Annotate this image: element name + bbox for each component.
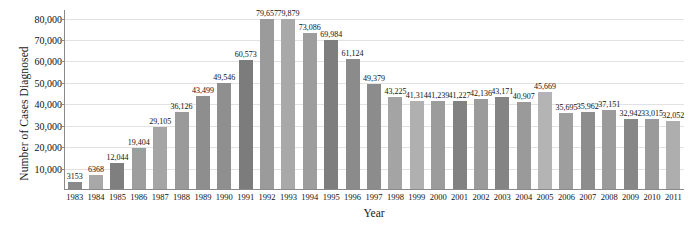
x-axis-title: Year [64, 207, 684, 219]
bar-group[interactable]: 61,124 [342, 10, 363, 189]
bar[interactable] [495, 97, 509, 189]
bar-chart: Number of Cases Diagnosed 10,00020,00030… [0, 0, 691, 227]
x-tick-label: 1985 [109, 192, 126, 202]
bar-value-label: 37,151 [598, 100, 620, 109]
bar-group[interactable]: 12,044 [107, 10, 128, 189]
bar[interactable] [260, 19, 274, 189]
bar-group[interactable]: 32,942 [620, 10, 641, 189]
bar-value-label: 61,124 [342, 49, 364, 58]
x-tick-label: 2010 [643, 192, 660, 202]
bar-group[interactable]: 49,379 [363, 10, 384, 189]
y-tick-label: 50,000 [20, 77, 62, 88]
bar-value-label: 36,126 [171, 102, 193, 111]
bar-group[interactable]: 3153 [64, 10, 85, 189]
bar[interactable] [624, 119, 638, 189]
bar-value-label: 35,695 [555, 103, 577, 112]
bar-value-label: 40,907 [513, 92, 535, 101]
bar[interactable] [303, 33, 317, 189]
y-tick-label: 20,000 [20, 142, 62, 153]
bar[interactable] [517, 102, 531, 189]
bar[interactable] [281, 19, 295, 189]
bar[interactable] [581, 112, 595, 189]
bar[interactable] [367, 84, 381, 189]
bar[interactable] [431, 101, 445, 189]
bar-group[interactable]: 19,404 [128, 10, 149, 189]
bar-value-label: 19,404 [128, 138, 150, 147]
x-tick-label: 1986 [130, 192, 147, 202]
x-tick-label: 2006 [558, 192, 575, 202]
bar-group[interactable]: 41,227 [449, 10, 470, 189]
x-axis-line [64, 189, 684, 190]
bar[interactable] [89, 175, 103, 189]
bar-group[interactable]: 45,669 [534, 10, 555, 189]
x-tick-label: 2000 [430, 192, 447, 202]
bar[interactable] [666, 121, 680, 189]
x-tick-label: 1993 [280, 192, 297, 202]
bar-group[interactable]: 43,171 [492, 10, 513, 189]
bar-group[interactable]: 42,136 [470, 10, 491, 189]
bar-group[interactable]: 36,126 [171, 10, 192, 189]
bar[interactable] [388, 97, 402, 189]
bar-value-label: 6368 [88, 165, 104, 174]
x-tick-label: 1996 [344, 192, 361, 202]
bar-group[interactable]: 35,695 [556, 10, 577, 189]
bar-group[interactable]: 32,052 [663, 10, 684, 189]
bar-group[interactable]: 49,546 [214, 10, 235, 189]
bar-value-label: 32,052 [662, 111, 684, 120]
bar-group[interactable]: 33,015 [641, 10, 662, 189]
bar-group[interactable]: 35,962 [577, 10, 598, 189]
bar-group[interactable]: 6368 [85, 10, 106, 189]
bar-group[interactable]: 79,657 [256, 10, 277, 189]
bar[interactable] [196, 96, 210, 189]
x-tick-label: 1999 [408, 192, 425, 202]
y-tick-label: 10,000 [20, 163, 62, 174]
bar[interactable] [410, 101, 424, 189]
bar-group[interactable]: 43,225 [385, 10, 406, 189]
bar-group[interactable]: 69,984 [321, 10, 342, 189]
bar-group[interactable]: 79,879 [278, 10, 299, 189]
bar[interactable] [153, 127, 167, 189]
bar-value-label: 79,879 [277, 9, 299, 18]
bar-value-label: 60,573 [235, 50, 257, 59]
x-tick-label: 2003 [494, 192, 511, 202]
bar-group[interactable]: 43,499 [192, 10, 213, 189]
x-tick-label: 1991 [237, 192, 254, 202]
bar[interactable] [110, 163, 124, 189]
bar-group[interactable]: 40,907 [513, 10, 534, 189]
bar-group[interactable]: 37,151 [598, 10, 619, 189]
bar-group[interactable]: 60,573 [235, 10, 256, 189]
bar-group[interactable]: 29,105 [150, 10, 171, 189]
bar-group[interactable]: 73,086 [299, 10, 320, 189]
x-tick-label: 1994 [301, 192, 318, 202]
y-tick-label: 40,000 [20, 99, 62, 110]
bar[interactable] [239, 60, 253, 189]
bar-value-label: 12,044 [106, 153, 128, 162]
bar[interactable] [175, 112, 189, 189]
bar-value-label: 43,171 [491, 87, 513, 96]
bar[interactable] [217, 83, 231, 189]
x-tick-label: 2009 [622, 192, 639, 202]
bar-value-label: 43,225 [384, 87, 406, 96]
bar[interactable] [538, 92, 552, 189]
bar[interactable] [324, 40, 338, 189]
bar-value-label: 42,136 [470, 89, 492, 98]
bar[interactable] [68, 182, 82, 189]
bar-value-label: 3153 [67, 172, 83, 181]
y-tick-label: 30,000 [20, 120, 62, 131]
bar[interactable] [346, 59, 360, 189]
bar-group[interactable]: 41,239 [427, 10, 448, 189]
bar[interactable] [132, 148, 146, 189]
bar[interactable] [474, 99, 488, 189]
bar-value-label: 41,314 [406, 91, 428, 100]
bar[interactable] [645, 119, 659, 189]
bar-value-label: 43,499 [192, 86, 214, 95]
bar-value-label: 41,227 [449, 91, 471, 100]
x-tick-label: 2004 [515, 192, 532, 202]
bar-value-label: 49,546 [213, 73, 235, 82]
bar-group[interactable]: 41,314 [406, 10, 427, 189]
x-tick-label: 2011 [665, 192, 682, 202]
bar-value-label: 73,086 [299, 23, 321, 32]
bar[interactable] [559, 113, 573, 189]
bar[interactable] [453, 101, 467, 189]
bar[interactable] [602, 110, 616, 189]
